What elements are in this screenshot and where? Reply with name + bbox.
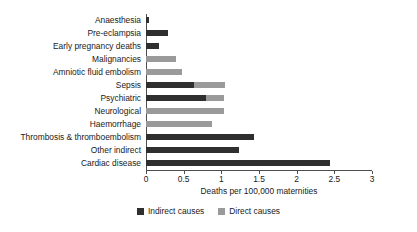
legend-label: Direct causes	[229, 206, 280, 216]
category-label: Pre-eclampsia	[87, 28, 141, 38]
legend-swatch-icon	[218, 208, 225, 215]
legend-label: Indirect causes	[148, 206, 204, 216]
bar-chart: AnaesthesiaPre-eclampsiaEarly pregnancy …	[0, 0, 417, 232]
bar-indirect-causes	[146, 160, 330, 166]
category-label: Haemorrhage	[90, 119, 141, 129]
category-label: Malignancies	[92, 54, 141, 64]
category-label: Early pregnancy deaths	[53, 41, 141, 51]
category-label: Cardiac disease	[81, 158, 141, 168]
tick-label: 1	[219, 174, 224, 185]
bar-indirect-causes	[146, 43, 159, 49]
bar-indirect-causes	[146, 134, 254, 140]
category-label: Thrombosis & thromboembolism	[20, 132, 141, 142]
legend-item: Direct causes	[218, 206, 280, 216]
category-label: Psychiatric	[101, 93, 142, 103]
bar-direct-causes	[146, 69, 182, 75]
plot-area: AnaesthesiaPre-eclampsiaEarly pregnancy …	[146, 14, 372, 169]
bar-row: Early pregnancy deaths	[146, 40, 372, 53]
category-label: Neurological	[94, 106, 141, 116]
bar-row: Thrombosis & thromboembolism	[146, 130, 372, 143]
bar-indirect-causes	[146, 147, 239, 153]
bar-row: Neurological	[146, 104, 372, 117]
tick-label: 0	[144, 174, 149, 185]
chart-legend: Indirect causesDirect causes	[0, 206, 417, 216]
bar-direct-causes	[146, 108, 224, 114]
tick-label: 2	[294, 174, 299, 185]
bar-indirect-causes	[146, 95, 206, 101]
bar-rows: AnaesthesiaPre-eclampsiaEarly pregnancy …	[146, 14, 372, 169]
x-axis-ticks: 00.511.522.53	[146, 171, 372, 185]
legend-swatch-icon	[137, 208, 144, 215]
bar-row: Cardiac disease	[146, 156, 372, 169]
bar-row: Other indirect	[146, 143, 372, 156]
legend-item: Indirect causes	[137, 206, 204, 216]
category-label: Other indirect	[91, 145, 141, 155]
tick-label: 0.5	[178, 174, 190, 185]
category-label: Anaesthesia	[95, 15, 141, 25]
tick-label: 3	[370, 174, 375, 185]
bar-row: Anaesthesia	[146, 14, 372, 27]
bar-row: Malignancies	[146, 53, 372, 66]
bar-row: Pre-eclampsia	[146, 27, 372, 40]
bar-row: Amniotic fluid embolism	[146, 66, 372, 79]
tick-label: 1.5	[253, 174, 265, 185]
category-label: Sepsis	[116, 80, 141, 90]
bar-row: Psychiatric	[146, 92, 372, 105]
tick-label: 2.5	[329, 174, 341, 185]
bar-row: Sepsis	[146, 79, 372, 92]
x-axis-title: Deaths per 100,000 maternities	[146, 186, 372, 196]
bar-indirect-causes	[146, 17, 149, 23]
category-label: Amniotic fluid embolism	[53, 67, 141, 77]
bar-direct-causes	[146, 56, 176, 62]
bar-direct-causes	[146, 121, 212, 127]
bar-row: Haemorrhage	[146, 117, 372, 130]
bar-indirect-causes	[146, 82, 194, 88]
bar-indirect-causes	[146, 30, 168, 36]
